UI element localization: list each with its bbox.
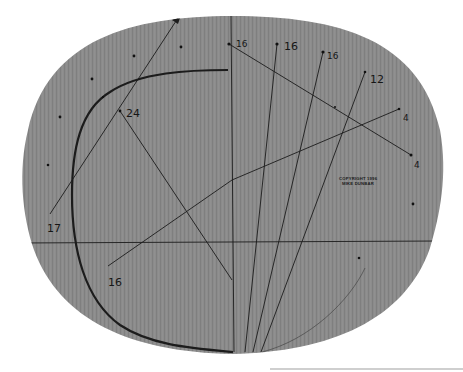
label-24: 24 [126, 107, 140, 120]
table-edge [270, 368, 463, 370]
label-16-b: 16 [284, 40, 298, 53]
copyright-line-2: MIKE DUNBAR [342, 181, 374, 186]
label-17: 17 [47, 222, 61, 235]
copyright-stamp: COPYRIGHT 1996 MIKE DUNBAR [339, 176, 378, 186]
label-4-b: 4 [414, 160, 420, 170]
label-12: 12 [370, 73, 384, 86]
label-16-a: 16 [236, 39, 248, 49]
label-4-a: 4 [403, 113, 409, 123]
template-board-svg: 24 17 16 16 16 16 12 4 4 COPYRIGHT 1996 … [0, 0, 463, 372]
label-16-bottom: 16 [108, 276, 122, 289]
photo-stage: 24 17 16 16 16 16 12 4 4 COPYRIGHT 1996 … [0, 0, 463, 372]
label-16-c: 16 [327, 51, 339, 61]
